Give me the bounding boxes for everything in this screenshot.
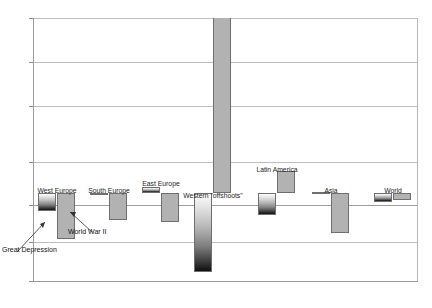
bar-latin-america-great-depression [258,193,276,215]
bar-world-great-depression [374,193,392,202]
bar-latin-america-world-war-ii [277,171,295,193]
bar-western-offshoots-great-depression [194,193,212,272]
category-label-latin-america: Latin America [256,166,297,173]
category-label-south-europe: South Europe [88,187,130,194]
category-label-western-offshoots: Western "offshoots" [183,192,242,199]
bar-world-world-war-ii [393,193,411,200]
annotation-world-war-ii: World War II [68,228,107,235]
bar-western-offshoots-world-war-ii [213,18,231,193]
bar-east-europe-world-war-ii [161,193,179,221]
annotation-great-depression: Great Depression [2,246,57,253]
bar-chart: 80 60 40 20 0 -20 -40 West Europe South … [0,0,432,308]
category-label-world: World [384,187,402,194]
bar-east-europe-great-depression [142,187,160,194]
bar-south-europe-world-war-ii [109,193,127,219]
bar-west-europe-great-depression [38,193,56,211]
bars-layer [0,0,432,308]
bar-asia-world-war-ii [331,193,349,232]
category-label-west-europe: West Europe [37,187,76,194]
category-label-east-europe: East Europe [142,180,179,187]
category-label-asia: Asia [324,187,337,194]
